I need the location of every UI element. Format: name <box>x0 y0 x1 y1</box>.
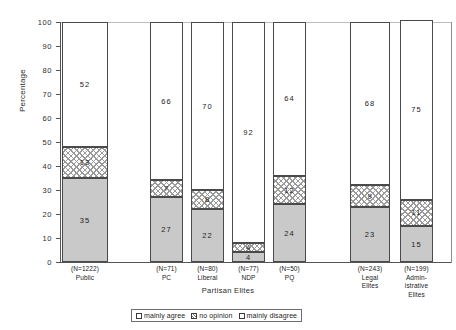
chart-figure: Percentage 0102030405060708090100 351352… <box>0 0 456 330</box>
x-axis-label-pq: (N=50)PQ <box>260 265 320 282</box>
bar-value-label: 4 <box>246 243 251 252</box>
legend-swatch-disagree-icon <box>239 313 245 319</box>
bar-value-label: 9 <box>367 192 372 201</box>
bar-segment-noop: 8 <box>191 190 224 209</box>
bar-value-label: 27 <box>161 225 171 234</box>
bar-ndp: 4492 <box>232 22 265 262</box>
bar-liberal: 22870 <box>191 22 224 262</box>
bar-value-label: 22 <box>202 231 212 240</box>
bar-segment-agree: 23 <box>350 207 390 262</box>
bar-segment-agree: 15 <box>400 226 433 262</box>
y-axis-tick-label: 20 <box>22 210 52 219</box>
bar-segment-agree: 24 <box>273 204 306 262</box>
bar-value-label: 66 <box>161 97 171 106</box>
bar-value-label: 35 <box>80 216 90 225</box>
bar-segment-disagree: 52 <box>62 22 108 147</box>
bar-value-label: 7 <box>164 184 169 193</box>
bar-segment-noop: 12 <box>273 176 306 205</box>
bar-segment-noop: 9 <box>350 185 390 207</box>
bar-value-label: 92 <box>243 128 253 137</box>
legend-label: mainly disagree <box>247 312 298 319</box>
x-axis-label-name: PQ <box>260 274 320 283</box>
y-axis-tick-label: 80 <box>22 66 52 75</box>
bar-segment-noop: 7 <box>150 180 183 197</box>
bar-administrative-elites: 151175 <box>400 22 433 262</box>
bar-value-label: 75 <box>411 105 421 114</box>
bar-value-label: 64 <box>284 94 294 103</box>
bar-public: 351352 <box>62 22 108 262</box>
x-axis-label-name: Public <box>55 274 115 283</box>
x-axis-title: Partisan Elites <box>0 286 456 295</box>
y-axis-tick-label: 100 <box>22 18 52 27</box>
bar-segment-agree: 4 <box>232 252 265 262</box>
bar-segment-disagree: 70 <box>191 22 224 190</box>
bar-segment-disagree: 64 <box>273 22 306 176</box>
y-axis-tick-label: 60 <box>22 114 52 123</box>
bar-segment-noop: 4 <box>232 243 265 253</box>
legend-item-disagree[interactable]: mainly disagree <box>239 312 298 319</box>
bar-value-label: 13 <box>80 158 90 167</box>
y-axis-tick-label: 10 <box>22 234 52 243</box>
y-axis-tick-label: 30 <box>22 186 52 195</box>
bar-value-label: 12 <box>284 186 294 195</box>
bar-value-label: 8 <box>205 195 210 204</box>
bar-segment-disagree: 92 <box>232 22 265 243</box>
bar-segment-disagree: 66 <box>150 22 183 180</box>
x-axis-line <box>60 262 452 263</box>
bar-value-label: 24 <box>284 229 294 238</box>
x-axis-label-name: Admin- <box>387 274 447 283</box>
bar-segment-agree: 22 <box>191 209 224 262</box>
legend-item-noop[interactable]: no opinion <box>191 312 232 319</box>
bar-pc: 27766 <box>150 22 183 262</box>
y-axis-tick-label: 0 <box>22 258 52 267</box>
bar-segment-agree: 27 <box>150 197 183 262</box>
bar-segment-agree: 35 <box>62 178 108 262</box>
y-axis-tick-label: 50 <box>22 138 52 147</box>
bar-legal-elites: 23968 <box>350 22 390 262</box>
legend-swatch-noop-icon <box>191 313 197 319</box>
legend-label: mainly agree <box>144 312 185 319</box>
bar-value-label: 23 <box>365 230 375 239</box>
bar-value-label: 68 <box>365 99 375 108</box>
legend-label: no opinion <box>199 312 232 319</box>
bar-segment-noop: 11 <box>400 200 433 226</box>
bar-value-label: 15 <box>411 240 421 249</box>
x-axis-label-sample-size: (N=50) <box>260 265 320 274</box>
y-axis-tick-label: 40 <box>22 162 52 171</box>
bar-value-label: 4 <box>246 253 251 262</box>
x-axis-label-sample-size: (N=199) <box>387 265 447 274</box>
y-axis-tick-label: 70 <box>22 90 52 99</box>
bar-segment-disagree: 68 <box>350 22 390 185</box>
bar-value-label: 11 <box>412 208 422 217</box>
bar-pq: 241264 <box>273 22 306 262</box>
legend-item-agree[interactable]: mainly agree <box>136 312 185 319</box>
bar-value-label: 52 <box>80 80 90 89</box>
bar-value-label: 70 <box>202 102 212 111</box>
chart-legend: mainly agreeno opinionmainly disagree <box>131 309 302 322</box>
y-axis-tick-label: 90 <box>22 42 52 51</box>
plot-area: 3513522776622870449224126423968151175 <box>60 22 452 262</box>
bar-segment-disagree: 75 <box>400 20 433 200</box>
x-axis-label-public: (N=1222)Public <box>55 265 115 282</box>
x-axis-label-sample-size: (N=1222) <box>55 265 115 274</box>
legend-swatch-agree-icon <box>136 313 142 319</box>
bar-segment-noop: 13 <box>62 147 108 178</box>
